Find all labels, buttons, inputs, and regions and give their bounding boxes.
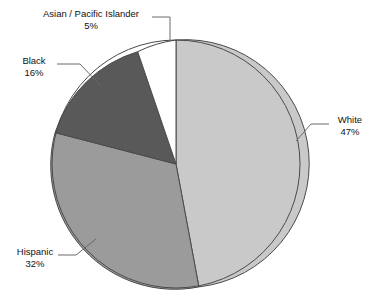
pie-label-hispanic: Hispanic 32% [4,246,66,270]
pie-slice-white[interactable] [176,40,309,287]
pie-chart-page: Asian / Pacific Islander 5% Black 16% Hi… [0,0,378,302]
pie-label-black: Black 16% [8,55,60,79]
pie-label-white-name: White [338,114,362,125]
pie-label-asian-pacific-islander-value: 5% [26,20,156,32]
pie-label-asian-pacific-islander-name: Asian / Pacific Islander [43,8,139,19]
pie-label-white: White 47% [330,114,370,138]
pie-label-white-value: 47% [330,126,370,138]
pie-label-hispanic-name: Hispanic [17,246,53,257]
pie-label-hispanic-value: 32% [4,258,66,270]
pie-label-asian-pacific-islander: Asian / Pacific Islander 5% [26,8,156,32]
pie-label-black-name: Black [22,55,45,66]
pie-label-black-value: 16% [8,67,60,79]
